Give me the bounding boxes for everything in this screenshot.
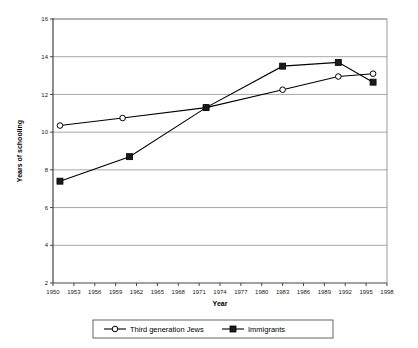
x-tick-label: 1974: [213, 289, 227, 295]
x-tick-label: 1986: [297, 289, 311, 295]
y-tick-label: 12: [41, 92, 48, 98]
y-tick-label: 14: [41, 54, 48, 60]
x-tick-label: 1992: [339, 289, 353, 295]
x-tick-label: 1953: [67, 289, 81, 295]
y-tick-label: 16: [41, 16, 48, 22]
x-tick-label: 1950: [46, 289, 60, 295]
chart-legend: Third generation JewsImmigrants: [93, 320, 333, 338]
line-chart: 246810121416 195019531956195919621965196…: [0, 0, 418, 348]
data-point-marker: [280, 63, 286, 69]
x-tick-label: 1965: [151, 289, 165, 295]
x-tick-label: 1980: [255, 289, 269, 295]
data-point-marker: [335, 59, 341, 65]
x-tick-label: 1968: [172, 289, 186, 295]
x-tick-label: 1977: [234, 289, 248, 295]
legend-marker-open-circle: [112, 326, 118, 332]
chart-container: 246810121416 195019531956195919621965196…: [0, 0, 418, 348]
x-axis-title: Year: [213, 300, 228, 307]
y-tick-label: 10: [41, 129, 48, 135]
x-tick-label: 1959: [109, 289, 123, 295]
data-point-marker: [370, 79, 376, 85]
x-tick-label: 1995: [359, 289, 373, 295]
data-point-marker: [57, 123, 63, 129]
y-axis-title: Years of schooling: [16, 120, 24, 182]
x-tick-label: 1971: [192, 289, 206, 295]
x-tick-label: 1989: [318, 289, 332, 295]
legend-marker-filled-square: [230, 326, 236, 332]
legend-box: [93, 320, 333, 338]
chart-background: [0, 0, 418, 348]
data-point-marker: [127, 154, 133, 160]
x-tick-label: 1983: [276, 289, 290, 295]
x-tick-label: 1956: [88, 289, 102, 295]
data-point-marker: [57, 178, 63, 184]
legend-label: Third generation Jews: [130, 325, 204, 334]
x-tick-label: 1998: [380, 289, 394, 295]
data-point-marker: [370, 71, 376, 77]
data-point-marker: [280, 87, 286, 93]
x-tick-label: 1962: [130, 289, 144, 295]
data-point-marker: [120, 115, 126, 121]
legend-label: Immigrants: [248, 325, 285, 334]
data-point-marker: [335, 74, 341, 80]
data-point-marker: [203, 105, 209, 111]
